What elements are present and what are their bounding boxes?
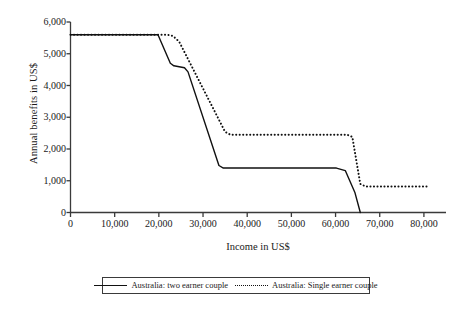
series-line [71,35,361,213]
x-axis-tick-label: 80,000 [394,219,454,229]
legend-swatch-solid-line-icon [94,285,127,286]
legend-swatch-dotted-line-icon [235,285,268,286]
data-series-layer [71,35,429,213]
legend-label: Australia: two earner couple [131,281,228,290]
axis-lines [70,22,446,213]
x-axis-tick-labels: 010,00020,00030,00040,00050,00060,00070,… [0,219,469,235]
chart-figure: Annual benefits in US$ 01,0002,0003,0004… [0,0,469,310]
x-axis-ticks [71,213,424,218]
x-axis-title: Income in US$ [70,241,446,252]
plot-area [0,0,469,310]
series-line [71,35,429,187]
chart-legend: Australia: two earner couple Australia: … [102,277,370,294]
legend-entry-single-earner-couple: Australia: Single earner couple [235,281,378,290]
legend-label: Australia: Single earner couple [272,281,378,290]
legend-entry-two-earner-couple: Australia: two earner couple [94,281,228,290]
